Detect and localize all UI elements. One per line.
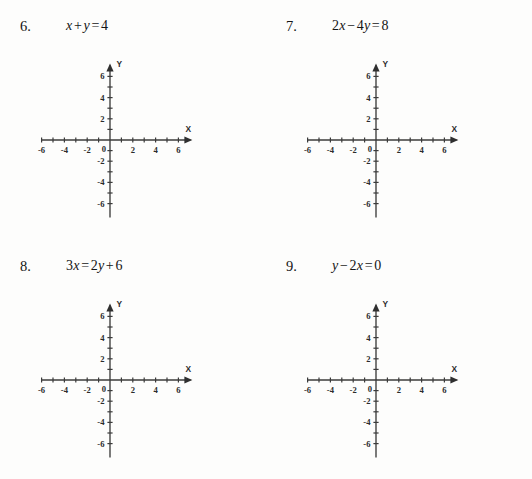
y-axis-label: Y [117, 299, 123, 309]
problem-8-number: 8. [20, 258, 31, 275]
problem-6-coordinate-plane[interactable]: -6-4-2246642-2-4-60XY [28, 52, 228, 222]
coordinate-axes-svg: -6-4-2246642-2-4-60XY [28, 52, 228, 222]
x-axis-tick-label: 4 [419, 145, 424, 155]
y-axis-tick-label: 2 [366, 354, 370, 364]
y-axis-tick-label: 6 [100, 311, 105, 321]
problem-7-coordinate-plane[interactable]: -6-4-2246642-2-4-60XY [294, 52, 494, 222]
y-axis-label: Y [117, 59, 123, 69]
problem-9-number: 9. [286, 258, 297, 275]
worksheet-page: 6. x+y=4 -6-4-2246642-2-4-60XY 7. 2x−4y=… [0, 0, 532, 479]
x-axis-arrow-icon [184, 136, 192, 143]
x-axis-tick-label: -4 [61, 145, 69, 155]
problem-6-number: 6. [20, 18, 31, 35]
y-axis-tick-label: -4 [97, 417, 105, 427]
x-axis-tick-label: 6 [176, 385, 181, 395]
problem-7-number: 7. [286, 18, 297, 35]
problem-8-header: 8. 3x=2y+6 [0, 258, 266, 282]
origin-label: 0 [102, 144, 106, 154]
x-axis-tick-label: -6 [304, 145, 312, 155]
x-axis-tick-label: -2 [350, 385, 357, 395]
equation-token-op: = [90, 18, 101, 33]
coordinate-axes-svg: -6-4-2246642-2-4-60XY [294, 52, 494, 222]
equation-token-op: = [370, 18, 381, 33]
y-axis-tick-label: 2 [100, 114, 104, 124]
problem-7-header: 7. 2x−4y=8 [266, 18, 532, 42]
equation-token-num: 8 [381, 18, 388, 33]
x-axis-tick-label: 6 [442, 385, 447, 395]
x-axis-tick-label: -2 [84, 145, 91, 155]
y-axis-tick-label: -2 [97, 156, 104, 166]
y-axis-tick-label: 6 [366, 71, 371, 81]
problem-8: 8. 3x=2y+6 -6-4-2246642-2-4-60XY [0, 240, 266, 479]
problem-9-header: 9. y−2x=0 [266, 258, 532, 282]
y-axis-tick-label: 2 [366, 114, 370, 124]
x-axis-tick-label: 6 [442, 145, 447, 155]
y-axis-tick-label: 4 [100, 333, 105, 343]
y-axis-tick-label: -4 [97, 177, 105, 187]
y-axis-tick-label: 4 [100, 93, 105, 103]
problem-9: 9. y−2x=0 -6-4-2246642-2-4-60XY [266, 240, 532, 479]
y-axis-arrow-icon [372, 63, 379, 71]
y-axis-tick-label: -6 [363, 199, 371, 209]
x-axis-tick-label: -4 [61, 385, 69, 395]
problem-8-equation: 3x=2y+6 [66, 258, 123, 274]
equation-token-num: 2 [91, 258, 98, 273]
y-axis-tick-label: -6 [97, 439, 105, 449]
y-axis-tick-label: -6 [363, 439, 371, 449]
equation-token-op: − [346, 18, 357, 33]
x-axis-tick-label: 2 [131, 145, 135, 155]
equation-token-num: 0 [374, 258, 381, 273]
y-axis-tick-label: -2 [97, 396, 104, 406]
x-axis-tick-label: 4 [153, 145, 158, 155]
equation-token-var: y [84, 18, 90, 33]
problem-9-coordinate-plane[interactable]: -6-4-2246642-2-4-60XY [294, 292, 494, 462]
y-axis-tick-label: -4 [363, 417, 371, 427]
equation-token-op: + [72, 18, 83, 33]
equation-token-var: x [73, 258, 79, 273]
x-axis-tick-label: 2 [131, 385, 135, 395]
origin-label: 0 [368, 384, 372, 394]
x-axis-tick-label: 2 [397, 385, 401, 395]
equation-token-op: = [80, 258, 91, 273]
y-axis-tick-label: 6 [366, 311, 371, 321]
x-axis-tick-label: -2 [84, 385, 91, 395]
x-axis-tick-label: 4 [419, 385, 424, 395]
x-axis-tick-label: 2 [397, 145, 401, 155]
equation-token-num: 2 [350, 258, 357, 273]
y-axis-tick-label: -2 [363, 396, 370, 406]
y-axis-tick-label: 4 [366, 93, 371, 103]
origin-label: 0 [102, 384, 106, 394]
equation-token-op: = [363, 258, 374, 273]
y-axis-tick-label: 2 [100, 354, 104, 364]
y-axis-arrow-icon [372, 303, 379, 311]
x-axis-tick-label: -4 [327, 145, 335, 155]
equation-token-op: + [104, 258, 115, 273]
problem-6: 6. x+y=4 -6-4-2246642-2-4-60XY [0, 0, 266, 240]
x-axis-tick-label: -2 [350, 145, 357, 155]
y-axis-label: Y [383, 59, 389, 69]
x-axis-label: X [452, 364, 458, 374]
problem-6-equation: x+y=4 [66, 18, 108, 34]
x-axis-label: X [186, 364, 192, 374]
x-axis-tick-label: -4 [327, 385, 335, 395]
equation-token-num: 4 [101, 18, 108, 33]
problem-9-equation: y−2x=0 [332, 258, 381, 274]
y-axis-tick-label: -2 [363, 156, 370, 166]
problem-8-coordinate-plane[interactable]: -6-4-2246642-2-4-60XY [28, 292, 228, 462]
x-axis-arrow-icon [450, 136, 458, 143]
x-axis-tick-label: -6 [38, 385, 46, 395]
x-axis-tick-label: -6 [304, 385, 312, 395]
y-axis-label: Y [383, 299, 389, 309]
x-axis-arrow-icon [184, 376, 192, 383]
x-axis-tick-label: 6 [176, 145, 181, 155]
equation-token-var: x [339, 18, 345, 33]
y-axis-arrow-icon [106, 303, 113, 311]
problem-7: 7. 2x−4y=8 -6-4-2246642-2-4-60XY [266, 0, 532, 240]
x-axis-label: X [452, 124, 458, 134]
y-axis-tick-label: 4 [366, 333, 371, 343]
y-axis-tick-label: 6 [100, 71, 105, 81]
x-axis-label: X [186, 124, 192, 134]
coordinate-axes-svg: -6-4-2246642-2-4-60XY [294, 292, 494, 462]
equation-token-num: 6 [115, 258, 122, 273]
x-axis-arrow-icon [450, 376, 458, 383]
